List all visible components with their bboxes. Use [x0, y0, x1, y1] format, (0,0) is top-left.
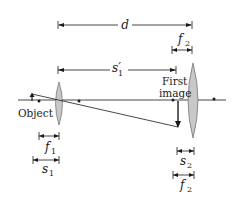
label-s1-sub: 1	[49, 169, 54, 178]
dimension-f2-bottom: f 2	[173, 171, 194, 194]
label-f2-top: f	[177, 32, 185, 46]
label-f2-top-sub: 2	[185, 39, 190, 48]
label-f2-bottom: f	[179, 178, 187, 192]
lens-1	[56, 82, 63, 125]
focal-point-f2-right	[213, 98, 216, 101]
chief-ray	[32, 94, 178, 127]
focal-point-f1-left	[38, 100, 41, 103]
label-first-image-line1: First	[162, 75, 188, 87]
label-s2: s	[180, 154, 186, 168]
label-first-image-line2: image	[159, 87, 192, 99]
dimension-f1: f 1	[39, 132, 59, 156]
two-lens-diagram: d f 2 s′ 1 First image Object f 1	[0, 0, 239, 204]
dimension-d: d	[58, 18, 192, 32]
label-f1-sub: 1	[51, 147, 56, 156]
label-s1-prime-sub: 1	[118, 69, 123, 78]
label-s2-sub: 2	[187, 161, 192, 170]
dimension-s1: s 1	[33, 156, 59, 178]
label-d: d	[121, 18, 129, 32]
label-object: Object	[18, 107, 54, 119]
lens-2	[188, 63, 198, 138]
first-image-arrow-head	[175, 121, 181, 128]
dimension-f2-top: f 2	[172, 32, 192, 54]
dimension-s1-prime: s′ 1	[58, 61, 176, 78]
focal-point-f1-right	[78, 100, 81, 103]
dimension-s2: s 2	[177, 147, 194, 170]
label-f2-bottom-sub: 2	[187, 185, 192, 194]
label-s1: s	[42, 162, 48, 176]
